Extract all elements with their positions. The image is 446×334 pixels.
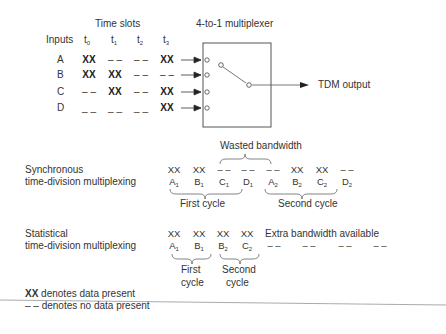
tdm-output-label: TDM output — [318, 79, 370, 90]
stat-slot-3-id: B2 — [211, 240, 235, 252]
extra-slot-3: – – — [333, 240, 357, 251]
inputs-label: Inputs — [46, 34, 73, 45]
sync-slot-8-id: D2 — [335, 176, 359, 188]
sync-second-cycle-label: Second cycle — [278, 198, 337, 209]
legend-dash-symbol: – – — [25, 300, 39, 311]
stat-first-cycle-label-2: cycle — [181, 277, 204, 288]
stat-label-line2: time-division multiplexing — [25, 240, 136, 251]
extra-slot-2: – – — [297, 240, 321, 251]
input-terminals — [205, 58, 209, 110]
slot-t2: t2 — [137, 34, 143, 46]
stat-slot-2-data: XX — [187, 228, 211, 239]
legend-data-present: XX denotes data present — [25, 288, 135, 299]
sync-slot-1-data: XX — [162, 164, 186, 175]
wasted-bandwidth-label: Wasted bandwidth — [220, 140, 302, 151]
sync-slot-4-data: – – — [236, 164, 260, 175]
stat-first-cycle-brace — [172, 254, 211, 264]
slot-t3: t3 — [163, 34, 169, 46]
multiplexer-label: 4-to-1 multiplexer — [196, 18, 273, 29]
input-a-label: A — [57, 54, 64, 65]
sync-slot-8-data: – – — [335, 164, 359, 175]
sync-slot-6-data: XX — [285, 164, 309, 175]
sync-slot-6-id: B2 — [285, 176, 309, 188]
cell-d-t2: _ _ — [129, 102, 153, 113]
slot-t0: t0 — [84, 34, 90, 46]
sync-slot-7-data: XX — [310, 164, 334, 175]
cell-d-t1: _ _ — [103, 102, 127, 113]
extra-slot-1: – – — [262, 240, 286, 251]
cell-a-t0: XX — [77, 54, 101, 65]
switch-arm — [223, 67, 246, 83]
extra-slot-4: – – — [368, 240, 392, 251]
stat-label-line1: Statistical — [25, 228, 68, 239]
legend-no-data: – – denotes no data present — [25, 300, 150, 311]
input-c-label: C — [57, 86, 64, 97]
sync-first-cycle-label: First cycle — [180, 198, 225, 209]
cell-b-t2: – – — [129, 69, 153, 80]
input-arrows — [181, 57, 201, 111]
cell-d-t3: XX — [155, 102, 179, 113]
sync-slot-3-id: C1 — [212, 176, 236, 188]
wasted-bandwidth-brace — [220, 154, 271, 164]
sync-slot-7-id: C2 — [310, 176, 334, 188]
stat-slot-4-data: XX — [235, 228, 259, 239]
input-d-label: D — [57, 102, 64, 113]
cell-a-t2: – – — [129, 54, 153, 65]
stat-second-cycle-label-2: cycle — [226, 277, 249, 288]
sync-slot-2-data: XX — [187, 164, 211, 175]
cell-c-t0: – – — [77, 86, 101, 97]
legend-xx-symbol: XX — [25, 288, 38, 299]
cell-a-t3: XX — [155, 54, 179, 65]
stat-second-cycle-label-1: Second — [222, 264, 256, 275]
cell-a-t1: – – — [103, 54, 127, 65]
switch-output-node — [247, 83, 252, 88]
cell-c-t1: XX — [103, 86, 127, 97]
sync-label-line1: Synchronous — [25, 164, 83, 175]
stat-slot-1-data: XX — [162, 228, 186, 239]
cell-d-t0: _ _ — [77, 102, 101, 113]
sync-slot-4-id: D1 — [236, 176, 260, 188]
cell-c-t3: XX — [155, 86, 179, 97]
stat-slot-3-data: XX — [211, 228, 235, 239]
sync-slot-3-data: – – — [212, 164, 236, 175]
sync-label-line2: time-division multiplexing — [25, 176, 136, 187]
cell-b-t3: – – — [155, 69, 179, 80]
cell-b-t1: XX — [103, 69, 127, 80]
sync-slot-1-id: A1 — [162, 176, 186, 188]
switch-pivot — [219, 63, 224, 68]
slot-t1: t1 — [111, 34, 117, 46]
extra-bandwidth-label: Extra bandwidth available — [265, 228, 379, 239]
input-b-label: B — [57, 69, 64, 80]
sync-slot-5-id: A2 — [261, 176, 285, 188]
output-arrowhead — [300, 82, 309, 88]
cell-c-t2: – – — [129, 86, 153, 97]
stat-first-cycle-label-1: First — [181, 264, 200, 275]
stat-slot-2-id: B1 — [187, 240, 211, 252]
cell-b-t0: XX — [77, 69, 101, 80]
stat-slot-1-id: A1 — [162, 240, 186, 252]
sync-slot-2-id: B1 — [187, 176, 211, 188]
sync-slot-5-data: – – — [261, 164, 285, 175]
time-slots-label: Time slots — [95, 18, 140, 29]
stat-slot-4-id: C2 — [235, 240, 259, 252]
stat-second-cycle-brace — [220, 254, 259, 264]
